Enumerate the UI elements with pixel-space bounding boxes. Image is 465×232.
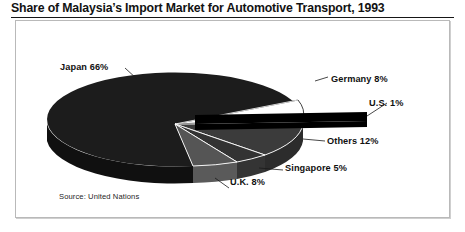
- pie-label-germany: Germany 8%: [331, 74, 388, 84]
- leader-line-others: [303, 139, 325, 141]
- pie-slice-us-exploded: [195, 112, 367, 130]
- pie-label-us: U.S. 1%: [369, 98, 403, 108]
- title-divider: [11, 17, 454, 18]
- chart-figure: Share of Malaysia’s Import Market for Au…: [0, 0, 465, 232]
- source-note: Source: United Nations: [59, 192, 139, 201]
- pie-label-singapore: Singapore 5%: [285, 163, 347, 173]
- pie-label-others: Others 12%: [327, 136, 379, 146]
- leader-line-germany: [315, 77, 328, 81]
- pie-label-japan: Japan 66%: [60, 62, 108, 72]
- pie-label-uk: U.K. 8%: [230, 177, 265, 187]
- pie-chart-graphic: [15, 20, 450, 218]
- page-title: Share of Malaysia’s Import Market for Au…: [11, 1, 385, 15]
